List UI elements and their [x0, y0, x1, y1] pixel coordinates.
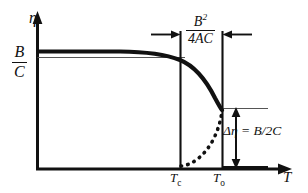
bc-level-label: B C: [12, 44, 27, 81]
stable-branch-curve: [38, 52, 222, 111]
delta-eta-label: Δη = B/2C: [223, 124, 281, 138]
barrier-right-arrowhead: [223, 30, 233, 38]
barrier-numerator: B2: [186, 13, 215, 30]
bc-denominator: C: [12, 63, 27, 81]
to-tick-subscript: o: [220, 178, 225, 188]
phase-transition-plot: [0, 0, 308, 193]
y-axis-label: η: [29, 10, 37, 26]
barrier-denominator: 4AC: [186, 31, 215, 47]
barrier-exponent: 2: [202, 12, 207, 22]
to-tick-label: To: [213, 171, 225, 188]
tc-tick-subscript: c: [177, 178, 181, 188]
bc-numerator: B: [12, 44, 27, 62]
curves-group: [38, 52, 268, 169]
barrier-height-label: B2 4AC: [186, 13, 215, 47]
tc-tick-label: Tc: [170, 171, 181, 188]
barrier-left-arrowhead: [171, 30, 181, 38]
axes-group: [33, 11, 292, 174]
x-axis-label: T: [283, 170, 291, 185]
unstable-branch-curve: [181, 110, 222, 166]
delta-eta-arrow: [232, 107, 241, 169]
figure-root: η T B C B2 4AC Tc To Δη = B/2C: [0, 0, 308, 193]
